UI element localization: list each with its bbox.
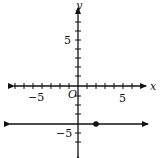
x-axis-label: x xyxy=(150,80,157,93)
y-tick-label-neg5: −5 xyxy=(56,127,72,140)
y-axis-label: y xyxy=(75,0,83,12)
coordinate-plane: y x O −5 5 5 −5 xyxy=(0,0,161,158)
x-tick-label-neg5: −5 xyxy=(28,91,44,104)
origin-label: O xyxy=(68,88,77,101)
y-tick-label-5: 5 xyxy=(64,34,71,47)
point-2-neg4 xyxy=(93,121,99,127)
x-tick-label-5: 5 xyxy=(119,92,126,105)
